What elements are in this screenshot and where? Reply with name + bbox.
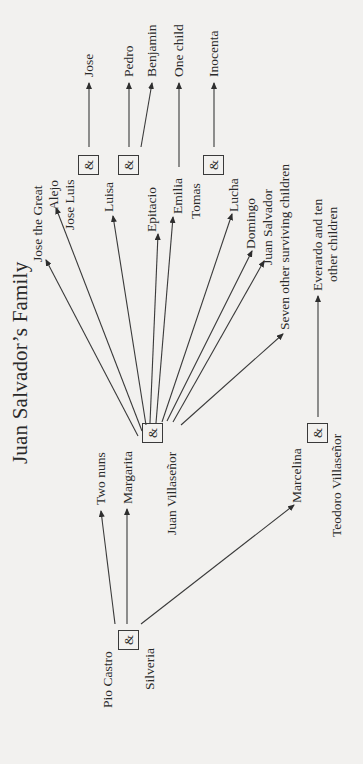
- person-juan-villasenor: Juan Villaseñor: [165, 452, 179, 535]
- couple-symbol-tomas-lucha: &: [203, 155, 224, 175]
- couple-symbol-pio-silveria: &: [118, 630, 139, 650]
- person-seven-other-children: Seven other surviving children: [278, 164, 292, 330]
- person-margarita: Margarita: [121, 451, 135, 504]
- person-epitacio: Epitacio: [145, 187, 159, 232]
- person-one-child: One child: [172, 24, 186, 77]
- person-jose-luis: Jose Luis: [63, 179, 77, 230]
- person-pedro: Pedro: [122, 46, 136, 78]
- couple-symbol-joseluis-luisa: &: [78, 155, 99, 175]
- couple-symbol-margarita-juan: &: [142, 423, 163, 443]
- person-lucha: Lucha: [227, 178, 241, 212]
- person-domingo: Domingo: [244, 198, 258, 249]
- connector-lines: [0, 0, 363, 764]
- person-marcelina: Marcelina: [290, 448, 304, 503]
- person-everardo-line1: Everardo and ten: [311, 199, 325, 291]
- person-juan-salvador: Juan Salvador: [261, 189, 275, 265]
- person-emilia: Emilia: [171, 178, 185, 214]
- family-tree-diagram: Juan Salvador’s Family & & & & & & Pio C…: [0, 0, 363, 764]
- person-jose: Jose: [82, 54, 96, 77]
- person-pio-castro: Pio Castro: [101, 651, 115, 708]
- person-teodoro-villasenor: Teodoro Villaseñor: [330, 434, 344, 537]
- person-silveria: Silveria: [143, 648, 157, 690]
- person-inocenta: Inocenta: [207, 31, 221, 77]
- person-two-nuns: Two nuns: [94, 452, 108, 505]
- person-jose-the-great: Jose the Great: [31, 186, 45, 262]
- couple-symbol-marcelina-teodoro: &: [307, 423, 328, 443]
- person-benjamin: Benjamin: [145, 25, 159, 78]
- person-tomas: Tomas: [189, 183, 203, 219]
- couple-symbol-luisa-epitacio: &: [118, 155, 139, 175]
- diagram-title: Juan Salvador’s Family: [8, 262, 33, 464]
- person-everardo-line2: other children: [326, 207, 340, 282]
- person-luisa: Luisa: [102, 182, 116, 212]
- person-alejo: Alejo: [47, 180, 61, 210]
